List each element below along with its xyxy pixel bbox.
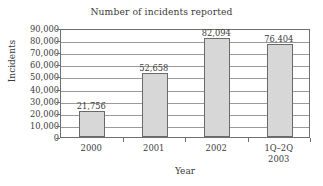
bar-value-label: 76,404	[264, 34, 293, 44]
x-tick-label-line: 1Q–2Q	[264, 143, 293, 153]
y-tick-mark	[56, 77, 60, 78]
x-tick-label: 1Q–2Q2003	[264, 143, 293, 165]
x-tick-label: 2001	[143, 143, 164, 154]
x-tick-mark	[310, 138, 311, 142]
y-tick-label: 0	[3, 133, 59, 143]
y-tick-mark	[56, 41, 60, 42]
y-tick-label: 60,000	[3, 60, 59, 70]
x-tick-mark	[123, 138, 124, 142]
y-tick-mark	[56, 102, 60, 103]
x-axis-title: Year	[60, 166, 310, 176]
bar-value-label: 82,094	[202, 28, 231, 38]
bar	[142, 73, 168, 137]
y-tick-label: 90,000	[3, 24, 59, 34]
x-tick-mark	[248, 138, 249, 142]
y-tick-mark	[56, 53, 60, 54]
y-tick-mark	[56, 65, 60, 66]
y-tick-mark	[56, 90, 60, 91]
x-tick-label-line: 2002	[206, 143, 227, 153]
y-tick-mark	[56, 29, 60, 30]
y-tick-mark	[56, 114, 60, 115]
y-tick-label: 40,000	[3, 85, 59, 95]
x-tick-label-line: 2000	[81, 143, 102, 153]
y-tick-label: 20,000	[3, 109, 59, 119]
x-tick-label: 2000	[81, 143, 102, 154]
y-tick-label: 50,000	[3, 72, 59, 82]
x-tick-label-line: 2003	[264, 154, 293, 165]
y-tick-label: 80,000	[3, 36, 59, 46]
bar	[267, 44, 293, 137]
bar-chart-figure: Number of incidents reported Incidents 0…	[0, 0, 323, 186]
y-tick-mark	[56, 126, 60, 127]
y-tick-label: 10,000	[3, 121, 59, 131]
bar-value-label: 52,658	[139, 63, 168, 73]
y-tick-mark	[56, 138, 60, 139]
plot-area	[60, 29, 310, 138]
chart-title: Number of incidents reported	[0, 6, 323, 17]
bar	[204, 38, 230, 137]
y-tick-label: 70,000	[3, 48, 59, 58]
bar-value-label: 21,756	[77, 101, 106, 111]
x-tick-mark	[185, 138, 186, 142]
x-tick-label: 2002	[206, 143, 227, 154]
x-tick-label-line: 2001	[143, 143, 164, 153]
y-tick-label: 30,000	[3, 97, 59, 107]
bar	[79, 111, 105, 137]
